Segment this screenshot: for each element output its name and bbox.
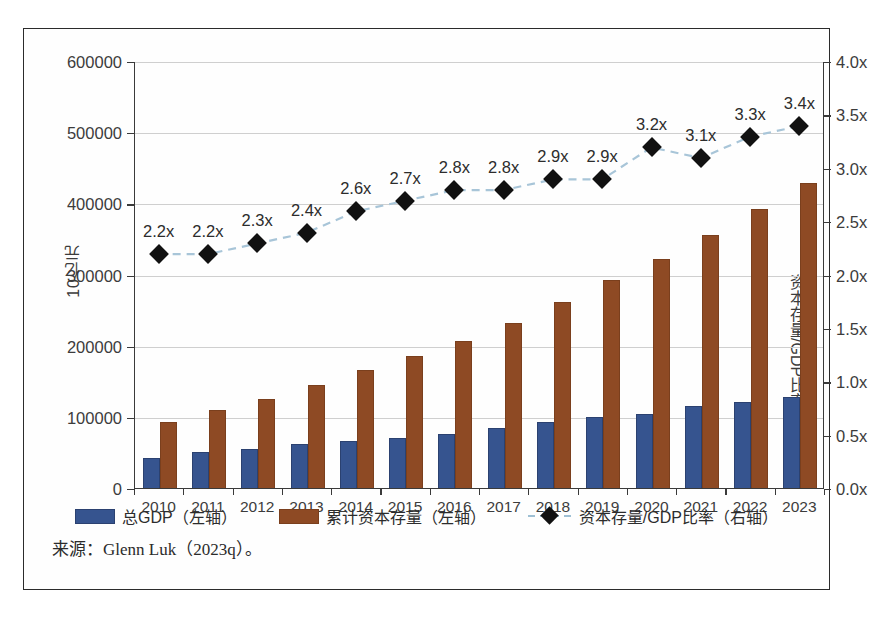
ratio-data-label: 2.8x <box>488 158 519 177</box>
x-tick <box>627 489 628 495</box>
legend-item[interactable]: 资本存量/GDP比率（右轴） <box>528 504 778 528</box>
x-tick <box>430 489 431 495</box>
ratio-data-label: 2.8x <box>439 158 470 177</box>
x-tick <box>233 489 234 495</box>
right-tick <box>824 276 831 277</box>
ratio-data-label: 2.2x <box>143 222 174 241</box>
right-tick-label: 2.0x <box>836 266 867 285</box>
left-tick <box>127 204 134 205</box>
right-tick-label: 2.5x <box>836 213 867 232</box>
ratio-data-label: 3.3x <box>734 105 765 124</box>
right-tick <box>824 115 831 116</box>
right-tick <box>824 436 831 437</box>
ratio-data-label: 2.3x <box>242 211 273 230</box>
legend-item[interactable]: 总GDP（左轴） <box>75 504 237 528</box>
x-tick <box>578 489 579 495</box>
left-tick-label: 400000 <box>67 195 122 214</box>
left-tick-label: 200000 <box>67 337 122 356</box>
x-tick <box>282 489 283 495</box>
right-tick <box>824 222 831 223</box>
right-tick-label: 0.5x <box>836 426 867 445</box>
left-tick <box>127 276 134 277</box>
right-tick-label: 1.5x <box>836 319 867 338</box>
ratio-data-label: 2.9x <box>537 147 568 166</box>
ratio-data-label: 3.2x <box>636 115 667 134</box>
left-tick <box>127 347 134 348</box>
x-tick <box>134 489 135 495</box>
plot-area: 2.2x2.2x2.3x2.4x2.6x2.7x2.8x2.8x2.9x2.9x… <box>134 62 824 489</box>
left-tick <box>127 418 134 419</box>
ratio-data-label: 2.9x <box>587 147 618 166</box>
left-axis-line <box>134 62 135 489</box>
legend-diamond-line-icon <box>528 509 572 523</box>
legend-diamond-icon <box>540 506 558 524</box>
right-tick <box>824 329 831 330</box>
left-tick-label: 500000 <box>67 124 122 143</box>
legend-label: 资本存量/GDP比率（右轴） <box>579 504 778 528</box>
x-tick <box>528 489 529 495</box>
left-tick-label: 100000 <box>67 408 122 427</box>
x-tick <box>725 489 726 495</box>
legend-swatch-capital-icon <box>279 509 319 524</box>
ratio-data-label: 3.4x <box>784 94 815 113</box>
chart-frame: 10亿元 资本存量/GDP比率（倍数） 2.2x2.2x2.3x2.4x2.6x… <box>23 28 830 590</box>
x-tick <box>331 489 332 495</box>
left-tick-label: 600000 <box>67 53 122 72</box>
left-tick <box>127 62 134 63</box>
left-tick <box>127 133 134 134</box>
x-tick <box>775 489 776 495</box>
ratio-line-series <box>134 62 824 489</box>
right-tick-label: 4.0x <box>836 53 867 72</box>
ratio-data-label: 3.1x <box>685 126 716 145</box>
legend-item[interactable]: 累计资本存量（左轴） <box>279 504 486 528</box>
right-tick <box>824 382 831 383</box>
right-tick-label: 3.0x <box>836 159 867 178</box>
source-note: 来源：Glenn Luk（2023q）。 <box>52 535 262 560</box>
x-tick <box>380 489 381 495</box>
left-tick-label: 0 <box>113 480 122 499</box>
left-tick-label: 300000 <box>67 266 122 285</box>
legend-label: 累计资本存量（左轴） <box>326 504 486 528</box>
right-tick <box>824 62 831 63</box>
x-tick <box>824 489 825 495</box>
right-tick-label: 3.5x <box>836 106 867 125</box>
ratio-data-label: 2.4x <box>291 201 322 220</box>
right-tick <box>824 169 831 170</box>
right-tick-label: 1.0x <box>836 373 867 392</box>
left-tick <box>127 489 134 490</box>
ratio-data-label: 2.7x <box>389 169 420 188</box>
x-tick <box>479 489 480 495</box>
x-tick <box>676 489 677 495</box>
plot-inner: 2.2x2.2x2.3x2.4x2.6x2.7x2.8x2.8x2.9x2.9x… <box>134 62 824 489</box>
chart-legend: 总GDP（左轴）累计资本存量（左轴）资本存量/GDP比率（右轴） <box>24 503 829 529</box>
ratio-data-label: 2.6x <box>340 179 371 198</box>
legend-label: 总GDP（左轴） <box>122 504 237 528</box>
ratio-data-label: 2.2x <box>192 222 223 241</box>
x-tick <box>183 489 184 495</box>
legend-swatch-gdp-icon <box>75 509 115 524</box>
right-tick-label: 0.0x <box>836 480 867 499</box>
